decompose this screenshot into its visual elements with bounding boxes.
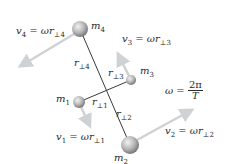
mass-m4-sphere xyxy=(72,21,88,37)
mass-m1-sphere xyxy=(73,96,85,108)
velocity-eq-v2: v2 = ωr⊥2 xyxy=(165,126,214,136)
velocity-eq-v4: v4 = ωr⊥4 xyxy=(16,26,65,36)
velocity-eq-v3: v3 = ωr⊥3 xyxy=(122,34,171,44)
mass-label-m1: m1 xyxy=(56,94,70,104)
v4-arrow xyxy=(24,34,74,64)
velocity-arrows xyxy=(24,34,188,140)
radius-label-r3: r⊥3 xyxy=(108,68,124,78)
mass-m2-sphere xyxy=(121,136,139,154)
rods xyxy=(79,29,131,145)
radius-label-r2: r⊥2 xyxy=(116,109,132,119)
mass-label-m3: m3 xyxy=(140,66,154,76)
radius-label-r1: r⊥1 xyxy=(92,97,108,107)
omega-fraction: 2πT xyxy=(188,80,203,101)
omega-equation: ω = 2πT xyxy=(165,80,203,101)
mass-label-m4: m4 xyxy=(91,21,105,31)
rod-m4-m2 xyxy=(80,29,130,145)
radius-label-r4: r⊥4 xyxy=(74,58,90,68)
v1-arrow xyxy=(81,107,88,122)
velocity-eq-v1: v1 = ωr⊥1 xyxy=(56,132,105,142)
rotating-masses-diagram: m4 m3 m1 m2 r⊥4 r⊥3 r⊥1 r⊥2 v4 = ωr⊥4 v3… xyxy=(0,0,225,164)
mass-label-m2: m2 xyxy=(114,153,128,163)
mass-m3-sphere xyxy=(126,75,136,85)
